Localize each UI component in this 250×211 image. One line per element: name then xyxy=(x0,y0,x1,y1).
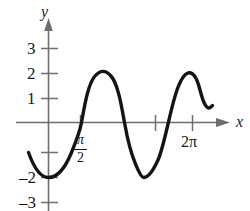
x-tick-label-pi-denominator: 2 xyxy=(75,151,86,166)
x-tick-label-pi-numerator: π xyxy=(75,133,86,148)
y-axis-ticks xyxy=(41,49,58,203)
curve-path xyxy=(29,71,213,177)
y-tick-label-neg2: –2 xyxy=(19,169,36,186)
math-figure-cosine-graph: 3 2 1 –2 –3 π 2 2π y x xyxy=(0,0,250,211)
graph-canvas xyxy=(0,0,250,211)
x-tick-label-pi-over-2: π 2 xyxy=(74,133,87,166)
y-tick-label-1: 1 xyxy=(27,90,36,107)
x-axis-label: x xyxy=(236,114,243,130)
x-tick-label-2pi: 2π xyxy=(181,134,197,150)
y-axis-label: y xyxy=(41,4,48,20)
y-axis xyxy=(44,18,53,211)
y-tick-label-3: 3 xyxy=(27,40,36,57)
y-tick-label-2: 2 xyxy=(27,65,36,82)
y-tick-label-neg3: –3 xyxy=(19,194,36,211)
